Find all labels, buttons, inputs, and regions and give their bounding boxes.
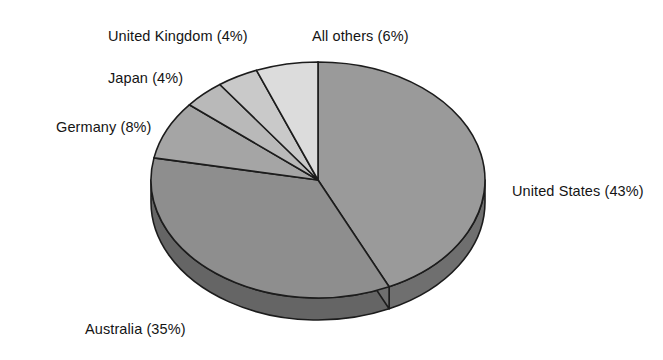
- pie-chart-graphic: [0, 0, 663, 360]
- slice-label-germany: Germany (8%): [56, 119, 151, 136]
- slice-label-united-kingdom: United Kingdom (4%): [108, 28, 248, 45]
- slice-label-australia: Australia (35%): [85, 321, 186, 338]
- slice-label-united-states: United States (43%): [512, 183, 644, 200]
- slice-label-all-others: All others (6%): [312, 28, 409, 45]
- slice-label-japan: Japan (4%): [108, 70, 183, 87]
- pie-chart: United Kingdom (4%) All others (6%) Japa…: [0, 0, 663, 360]
